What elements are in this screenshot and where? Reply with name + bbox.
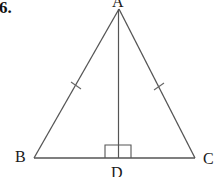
side-ab [34,9,119,158]
vertex-label-c: C [203,150,214,167]
problem-number: 6. [0,0,12,17]
vertex-label-b: B [15,148,26,165]
vertex-label-d: D [111,164,123,177]
side-ac [119,9,195,158]
tick-mark-ab [71,82,81,89]
tick-mark-ac [154,83,164,90]
triangle-diagram: 6. A B C D [0,0,222,177]
vertex-label-a: A [112,0,124,10]
